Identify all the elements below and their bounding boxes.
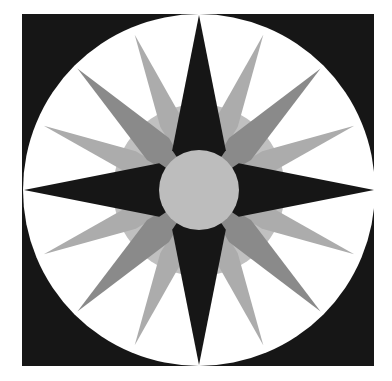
center-disc [159,150,239,230]
compass-rose-quilt-block [0,0,392,381]
